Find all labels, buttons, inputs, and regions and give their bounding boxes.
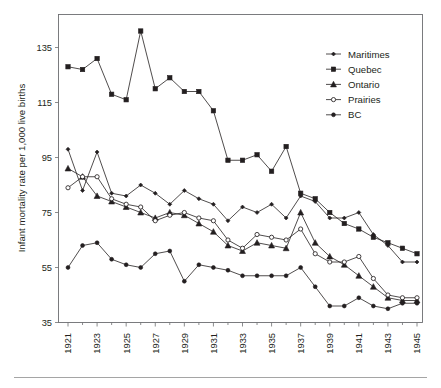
data-point-marker xyxy=(124,202,128,206)
data-point-marker xyxy=(255,211,259,215)
data-point-marker xyxy=(356,273,362,279)
data-point-marker xyxy=(415,260,419,264)
legend-label: Quebec xyxy=(348,64,382,75)
data-point-marker xyxy=(65,165,71,171)
x-tick-label: 1939 xyxy=(325,333,335,354)
data-point-marker xyxy=(197,263,201,267)
data-point-marker xyxy=(370,284,376,290)
series-ontario xyxy=(65,165,420,303)
data-point-marker xyxy=(299,227,303,231)
data-point-marker xyxy=(168,76,172,80)
data-point-marker xyxy=(81,189,85,193)
x-tick-label: 1943 xyxy=(383,333,393,354)
legend-label: Maritimes xyxy=(348,49,390,60)
legend-label: Prairies xyxy=(348,94,381,105)
data-point-marker xyxy=(153,252,157,256)
data-point-marker xyxy=(211,219,215,223)
legend-item-prairies[interactable]: Prairies xyxy=(326,94,381,105)
data-point-marker xyxy=(66,147,70,151)
data-point-marker xyxy=(153,219,157,223)
x-tick-label: 1923 xyxy=(92,333,102,354)
data-point-marker xyxy=(168,213,172,217)
legend-item-ontario[interactable]: Ontario xyxy=(326,79,379,90)
x-axis-tick-labels: 1921192319251927192919311933193519371939… xyxy=(63,333,422,354)
data-point-marker xyxy=(284,144,288,148)
x-tick-label: 1931 xyxy=(209,333,219,354)
data-point-marker xyxy=(95,241,99,245)
y-tick-label: 95 xyxy=(42,153,52,163)
data-point-marker xyxy=(168,249,172,253)
data-point-marker xyxy=(139,29,143,33)
y-axis-ticks xyxy=(55,48,59,323)
legend-label: Ontario xyxy=(348,79,379,90)
data-point-marker xyxy=(342,304,346,308)
data-point-marker xyxy=(371,276,375,280)
data-point-marker xyxy=(124,263,128,267)
data-point-marker xyxy=(197,197,201,201)
data-point-marker xyxy=(371,304,375,308)
data-point-marker xyxy=(357,254,361,258)
data-point-marker xyxy=(95,56,99,60)
x-axis-ticks xyxy=(68,323,417,327)
data-point-marker xyxy=(284,238,288,242)
data-point-marker xyxy=(110,191,114,195)
x-tick-label: 1927 xyxy=(151,333,161,354)
data-point-marker xyxy=(182,279,186,283)
data-point-marker xyxy=(400,246,404,250)
data-point-marker xyxy=(139,266,143,270)
data-point-marker xyxy=(226,158,230,162)
data-point-marker xyxy=(197,216,201,220)
data-point-marker xyxy=(138,209,144,215)
x-tick-label: 1933 xyxy=(238,333,248,354)
legend-item-maritimes[interactable]: Maritimes xyxy=(326,49,390,60)
data-point-marker xyxy=(66,186,70,190)
data-point-marker xyxy=(254,240,260,246)
data-point-marker xyxy=(182,210,186,214)
y-axis-tick-labels: 35557595115135 xyxy=(36,43,52,328)
data-point-marker xyxy=(255,232,259,236)
data-point-marker xyxy=(328,304,332,308)
data-point-marker xyxy=(80,67,84,71)
data-point-marker xyxy=(298,191,302,195)
data-point-marker xyxy=(240,158,244,162)
data-point-marker xyxy=(298,209,304,215)
data-point-marker xyxy=(415,252,419,256)
data-point-marker xyxy=(66,65,70,69)
data-point-marker xyxy=(299,266,303,270)
series-line xyxy=(68,169,417,301)
x-tick-label: 1929 xyxy=(180,333,190,354)
y-tick-label: 35 xyxy=(42,318,52,328)
data-point-marker xyxy=(153,87,157,91)
x-tick-label: 1941 xyxy=(354,333,364,354)
data-point-marker xyxy=(95,150,99,154)
chart-legend: MaritimesQuebecOntarioPrairiesBC xyxy=(326,49,390,121)
legend-item-bc[interactable]: BC xyxy=(326,109,361,120)
data-point-marker xyxy=(270,274,274,278)
y-tick-label: 55 xyxy=(42,263,52,273)
data-point-marker xyxy=(400,296,404,300)
data-point-marker xyxy=(139,205,143,209)
data-point-marker xyxy=(312,240,318,246)
data-point-marker xyxy=(226,268,230,272)
x-tick-label: 1945 xyxy=(412,333,422,354)
data-point-marker xyxy=(109,92,113,96)
data-point-marker xyxy=(313,285,317,289)
data-point-marker xyxy=(332,113,336,117)
line-chart: 35557595115135 1921192319251927192919311… xyxy=(0,0,441,388)
legend-item-quebec[interactable]: Quebec xyxy=(326,64,382,75)
data-point-marker xyxy=(328,210,332,214)
chart-figure: 35557595115135 1921192319251927192919311… xyxy=(0,0,441,388)
x-tick-label: 1925 xyxy=(122,333,132,354)
data-point-marker xyxy=(211,266,215,270)
data-point-marker xyxy=(226,238,230,242)
data-point-marker xyxy=(357,296,361,300)
y-tick-label: 115 xyxy=(37,98,52,108)
data-point-marker xyxy=(328,260,332,264)
legend-label: BC xyxy=(348,109,361,120)
svg-text:Infant mortality rate per 1,00: Infant mortality rate per 1,000 live bir… xyxy=(16,84,27,253)
data-point-marker xyxy=(386,307,390,311)
data-point-marker xyxy=(386,293,390,297)
y-tick-label: 135 xyxy=(36,43,52,53)
data-point-marker xyxy=(66,266,70,270)
data-point-marker xyxy=(110,257,114,261)
